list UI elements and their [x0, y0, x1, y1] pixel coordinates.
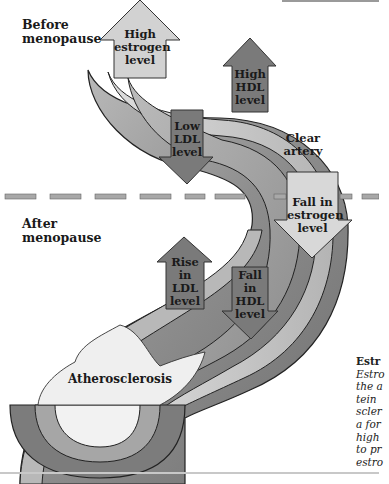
caption-title: Estr — [356, 355, 389, 368]
before-menopause-label: Before menopause — [22, 18, 102, 46]
before-label-line2: menopause — [22, 31, 102, 46]
bottom-rule — [0, 472, 379, 474]
caption-line: estro — [356, 456, 389, 469]
caption-line: Estro — [356, 368, 389, 381]
caption-line: tein — [356, 393, 389, 406]
after-label-line2: menopause — [22, 230, 102, 245]
fall-hdl-text: FallinHDLlevel — [232, 269, 268, 321]
figure-caption: Estr Estro the a tein scler a for high t… — [356, 355, 389, 468]
caption-line: a for — [356, 418, 389, 431]
after-menopause-label: After menopause — [22, 217, 102, 245]
low-ldl-text: LowLDLlevel — [171, 120, 203, 159]
before-label-line1: Before — [22, 17, 69, 32]
high-hdl-text: HighHDLlevel — [232, 68, 268, 107]
caption-line: to pr — [356, 443, 389, 456]
rise-ldl-text: RiseinLDLlevel — [166, 256, 204, 308]
caption-line: high — [356, 431, 389, 444]
caption-line: scler — [356, 405, 389, 418]
after-label-line1: After — [22, 216, 57, 231]
caption-line: the a — [356, 380, 389, 393]
atherosclerosis-label: Atherosclerosis — [68, 372, 172, 386]
high-estrogen-text: Highestrogenlevel — [114, 28, 166, 67]
clear-artery-label: Clearartery — [278, 132, 328, 158]
fall-estrogen-text: Fall inestrogenlevel — [287, 196, 338, 235]
